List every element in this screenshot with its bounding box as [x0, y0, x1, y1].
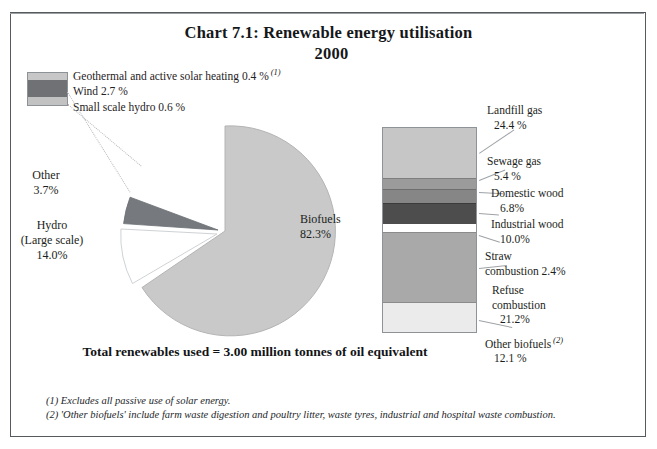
bar-segment-industrial-wood: [383, 203, 476, 224]
pie-label-hydro-name: Hydro: [4, 218, 100, 233]
pie-label-biofuels: Biofuels 82.3%: [300, 212, 390, 242]
bar-segment-domestic-wood: [383, 189, 476, 203]
pie-label-hydro-sub: (Large scale): [4, 233, 100, 248]
footnote-1: (1) Excludes all passive use of solar en…: [46, 394, 626, 408]
other-breakout-legend: Geothermal and active solar heating 0.4 …: [73, 65, 323, 115]
bar-label-straw-combustion-name: Straw: [485, 249, 566, 264]
pie-label-other-value: 3.7%: [10, 183, 82, 198]
chart-page: Chart 7.1: Renewable energy utilisation …: [0, 0, 657, 449]
pie-label-other: Other 3.7%: [10, 168, 82, 198]
bar-label-sewage-gas-value: 5.4 %: [487, 169, 541, 184]
bar-label-industrial-wood: Industrial wood 10.0%: [491, 217, 564, 246]
bar-label-straw-combustion-value: combustion 2.4%: [485, 264, 566, 279]
pie-label-hydro: Hydro (Large scale) 14.0%: [4, 218, 100, 263]
bar-label-refuse-combustion: Refuse combustion 21.2%: [492, 283, 546, 327]
pie-label-biofuels-value: 82.3%: [300, 227, 390, 242]
chart-title: Chart 7.1: Renewable energy utilisation …: [0, 22, 657, 64]
bar-label-domestic-wood: Domestic wood 6.8%: [491, 186, 564, 215]
title-line-1: Chart 7.1: Renewable energy utilisation: [0, 22, 657, 43]
frame-top-rule: [10, 13, 644, 14]
bar-segment-straw-combustion: [383, 224, 476, 232]
legend-row-small-hydro: Small scale hydro 0.6 %: [73, 100, 323, 116]
bar-segment-sewage-gas: [383, 178, 476, 189]
footnote-2: (2) 'Other biofuels' include farm waste …: [46, 408, 626, 422]
other-segment-geothermal: [28, 73, 67, 80]
footnote-ref-1: (1): [269, 67, 281, 77]
bar-label-refuse-combustion-value: 21.2%: [492, 312, 546, 327]
legend-label-geothermal: Geothermal and active solar heating 0.4 …: [73, 70, 269, 82]
legend-row-geothermal: Geothermal and active solar heating 0.4 …: [73, 65, 323, 84]
bar-label-domestic-wood-value: 6.8%: [491, 201, 564, 216]
other-segment-small-hydro: [28, 97, 67, 105]
bar-label-industrial-wood-value: 10.0%: [491, 232, 564, 247]
bar-segment-other-biofuels: [383, 303, 476, 332]
footnote-ref-2: (2): [551, 335, 563, 345]
footnotes: (1) Excludes all passive use of solar en…: [46, 394, 626, 422]
bar-label-landfill-gas-name: Landfill gas: [487, 103, 542, 118]
bar-label-domestic-wood-name: Domestic wood: [491, 186, 564, 201]
bar-label-landfill-gas: Landfill gas 24.4 %: [487, 103, 542, 132]
bar-label-sewage-gas-name: Sewage gas: [487, 154, 541, 169]
pie-label-other-name: Other: [10, 168, 82, 183]
bar-label-landfill-gas-value: 24.4 %: [487, 118, 542, 133]
bar-segment-refuse-combustion: [383, 232, 476, 303]
bar-label-refuse-combustion-sub: combustion: [492, 298, 546, 313]
bar-label-straw-combustion: Straw combustion 2.4%: [485, 249, 566, 278]
bar-label-industrial-wood-name: Industrial wood: [491, 217, 564, 232]
title-line-2: 2000: [0, 43, 657, 64]
other-segment-wind: [28, 80, 67, 98]
bar-label-refuse-combustion-name: Refuse: [492, 283, 546, 298]
other-breakout-bar: [27, 72, 68, 106]
pie-slice-other: [124, 197, 218, 230]
total-renewables-text: Total renewables used = 3.00 million ton…: [0, 344, 510, 360]
bar-label-sewage-gas: Sewage gas 5.4 %: [487, 154, 541, 183]
legend-row-wind: Wind 2.7 %: [73, 84, 323, 100]
pie-label-hydro-value: 14.0%: [4, 248, 100, 263]
bar-segment-landfill-gas: [383, 128, 476, 178]
pie-label-biofuels-name: Biofuels: [300, 212, 390, 227]
biofuels-breakout-bar: [382, 127, 477, 333]
